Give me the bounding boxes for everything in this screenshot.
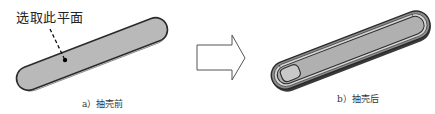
caption-after-shell: b）抽壳后 xyxy=(337,92,379,105)
caption-before-shell: a）抽壳前 xyxy=(82,97,123,110)
callout-leader-line xyxy=(50,29,64,58)
selected-face-dot xyxy=(63,58,67,62)
part-after-shell xyxy=(267,7,435,96)
part-before-shell xyxy=(13,14,172,95)
transform-arrow-icon xyxy=(197,35,245,80)
shell-figure: 选取此平面 a）抽壳前 b）抽壳后 xyxy=(0,0,435,114)
select-face-callout: 选取此平面 xyxy=(16,7,84,26)
